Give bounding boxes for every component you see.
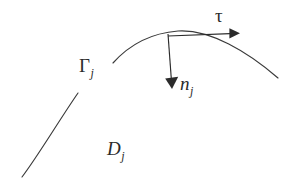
normal-symbol: n — [180, 73, 190, 94]
label-tau: τ — [215, 6, 223, 25]
figure-canvas: Γj nj τ Dj — [0, 0, 290, 183]
normal-subscript: j — [190, 84, 193, 98]
geometry-diagram — [0, 0, 290, 183]
tangent-vector-arrowhead — [229, 28, 240, 38]
gamma-symbol: Γ — [79, 55, 90, 76]
tau-symbol: τ — [215, 5, 223, 26]
boundary-arc-gamma — [113, 31, 278, 78]
tangent-vector-line — [168, 34, 230, 36]
domain-symbol: D — [107, 138, 121, 159]
label-gamma-j: Γj — [79, 56, 94, 79]
label-d-j: Dj — [107, 139, 125, 162]
label-n-j: nj — [180, 74, 193, 97]
normal-vector-line — [168, 34, 171, 80]
lower-arc-domain-boundary — [22, 93, 78, 177]
domain-subscript: j — [121, 149, 124, 163]
gamma-subscript: j — [90, 66, 93, 80]
normal-vector-arrowhead — [165, 77, 178, 89]
